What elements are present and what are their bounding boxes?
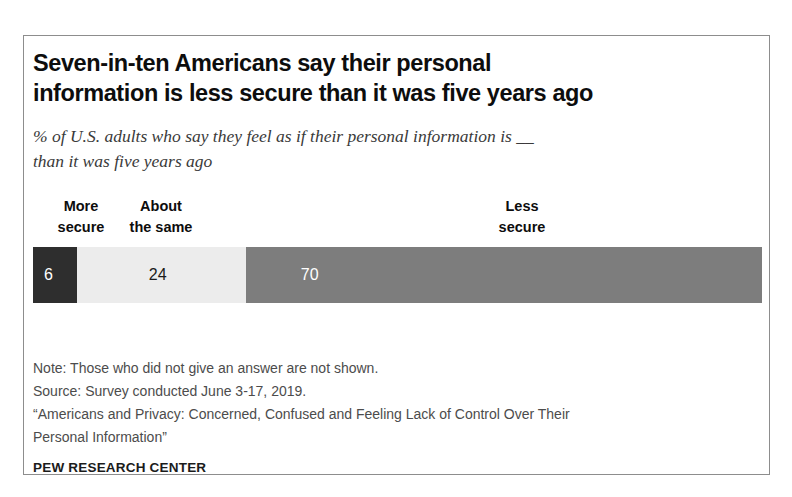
footer-source: Source: Survey conducted June 3-17, 2019… xyxy=(33,380,749,403)
footer-note: Note: Those who did not give an answer a… xyxy=(33,357,749,380)
category-label-more-secure: More secure xyxy=(58,196,105,238)
chart-card: Seven-in-ten Americans say their persona… xyxy=(23,35,770,475)
category-label-less-secure-line-2: secure xyxy=(499,217,546,238)
category-label-less-secure-line-1: Less xyxy=(499,196,546,217)
bar-value-more-secure: 6 xyxy=(44,267,53,283)
title-line-2: information is less secure than it was f… xyxy=(33,78,733,108)
subtitle-line-1: % of U.S. adults who say they feel as if… xyxy=(33,124,745,149)
bar-value-about-the-same: 24 xyxy=(149,267,167,283)
footer-report-title-line-1: “Americans and Privacy: Concerned, Confu… xyxy=(33,403,749,426)
bar-track: 6 24 70 xyxy=(33,247,762,303)
category-label-less-secure: Less secure xyxy=(499,196,546,238)
bar-value-less-secure: 70 xyxy=(301,267,319,283)
bar-segment-less-secure: 70 xyxy=(246,247,762,303)
category-label-about-the-same-line-1: About xyxy=(130,196,193,217)
page-title: Seven-in-ten Americans say their persona… xyxy=(33,48,733,108)
subtitle-line-2: than it was five years ago xyxy=(33,149,745,174)
stacked-bar-chart: More secure About the same Less secure 6… xyxy=(33,196,762,338)
chart-footer: Note: Those who did not give an answer a… xyxy=(33,357,749,449)
category-label-more-secure-line-2: secure xyxy=(58,217,105,238)
bar-segment-about-the-same: 24 xyxy=(77,247,246,303)
pew-research-center-brand: PEW RESEARCH CENTER xyxy=(33,460,206,475)
chart-card-inner: Seven-in-ten Americans say their persona… xyxy=(33,36,762,474)
bar-segment-more-secure: 6 xyxy=(33,247,77,303)
category-labels: More secure About the same Less secure xyxy=(33,196,762,244)
category-label-about-the-same: About the same xyxy=(130,196,193,238)
footer-report-title-line-2: Personal Information” xyxy=(33,426,749,449)
category-label-about-the-same-line-2: the same xyxy=(130,217,193,238)
chart-subtitle: % of U.S. adults who say they feel as if… xyxy=(33,124,745,174)
category-label-more-secure-line-1: More xyxy=(58,196,105,217)
title-line-1: Seven-in-ten Americans say their persona… xyxy=(33,48,733,78)
